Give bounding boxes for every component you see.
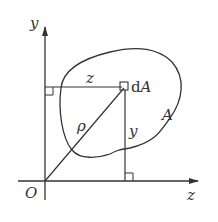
right-angle-mark-z-axis: [125, 173, 133, 181]
moment-of-inertia-diagram: y z O A z y ρ dA: [0, 0, 218, 222]
right-angle-mark-y-axis: [45, 87, 53, 95]
diagram-svg: y z O A z y ρ dA: [0, 0, 218, 222]
z-axis-label: z: [186, 186, 195, 204]
vertical-distance-label: y: [128, 122, 138, 140]
radial-distance-label: ρ: [76, 117, 86, 135]
area-element-label-var: A: [139, 78, 152, 96]
area-element-label-prefix: d: [131, 78, 141, 96]
y-axis-label: y: [29, 14, 39, 32]
horizontal-distance-label: z: [85, 69, 94, 87]
origin-label: O: [25, 184, 37, 202]
region-label: A: [160, 106, 173, 124]
area-element-label: dA: [131, 78, 152, 96]
